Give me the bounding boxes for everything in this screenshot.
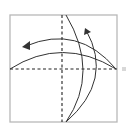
- upper-arrow-curve: [26, 39, 116, 69]
- top-arrowhead-icon: [84, 28, 91, 35]
- left-arrowhead-icon: [22, 41, 30, 50]
- outer-vertical-curve: [66, 15, 83, 122]
- origami-fold-diagram: [0, 0, 126, 132]
- lower-horizontal-curve: [10, 53, 116, 70]
- inner-arrow-curve: [66, 30, 96, 122]
- side-marker: [122, 67, 126, 71]
